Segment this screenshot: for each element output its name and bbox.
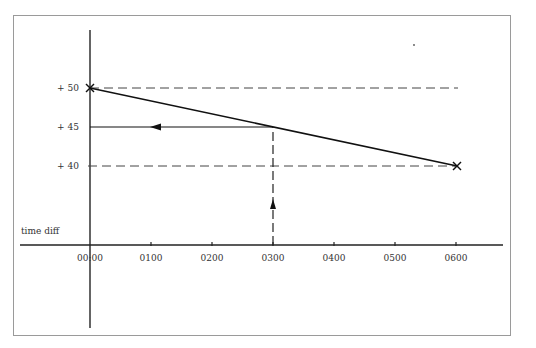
y-tick-label-50: + 50 [57, 83, 79, 93]
x-tick-label-0400: 0400 [323, 253, 346, 263]
arrow-left-icon [150, 124, 161, 131]
arrow-up-icon [270, 199, 276, 209]
chart-frame [14, 16, 511, 336]
x-tick-label-0600: 0600 [445, 253, 468, 263]
x-tick-label-0100: 0100 [140, 253, 163, 263]
y-axis-label: time diff [21, 226, 60, 236]
y-tick-label-40: + 40 [57, 161, 79, 171]
y-tick-label-45: + 45 [57, 122, 79, 132]
x-tick-label-0200: 0200 [201, 253, 224, 263]
chart-canvas: + 50 + 45 + 40 time diff 00:00 0100 0200… [0, 0, 536, 348]
x-tick-label-0000: 00:00 [77, 253, 103, 263]
stray-dot [413, 44, 415, 46]
x-tick-label-0300: 0300 [262, 253, 285, 263]
x-tick-label-0500: 0500 [384, 253, 407, 263]
